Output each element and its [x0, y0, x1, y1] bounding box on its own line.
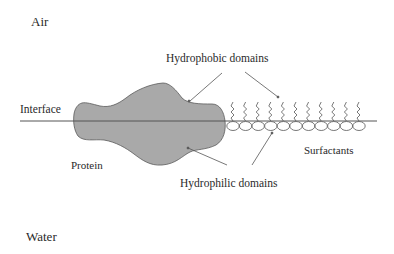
water-label: Water — [26, 230, 57, 243]
protein-shape — [74, 83, 226, 165]
protein-label: Protein — [71, 160, 103, 171]
diagram-svg — [0, 0, 394, 254]
hydrophobic-pointers — [188, 72, 279, 102]
hydrophobic-domains-label: Hydrophobic domains — [166, 53, 269, 65]
air-label: Air — [31, 15, 48, 28]
hydrophilic-domains-label: Hydrophilic domains — [180, 178, 277, 190]
diagram-canvas: Air Water Interface Hydrophobic domains … — [0, 0, 394, 254]
surfactant-tails — [231, 102, 360, 121]
surfactants-label: Surfactants — [304, 145, 353, 156]
surfactant-heads — [227, 122, 365, 131]
interface-label: Interface — [20, 104, 61, 116]
